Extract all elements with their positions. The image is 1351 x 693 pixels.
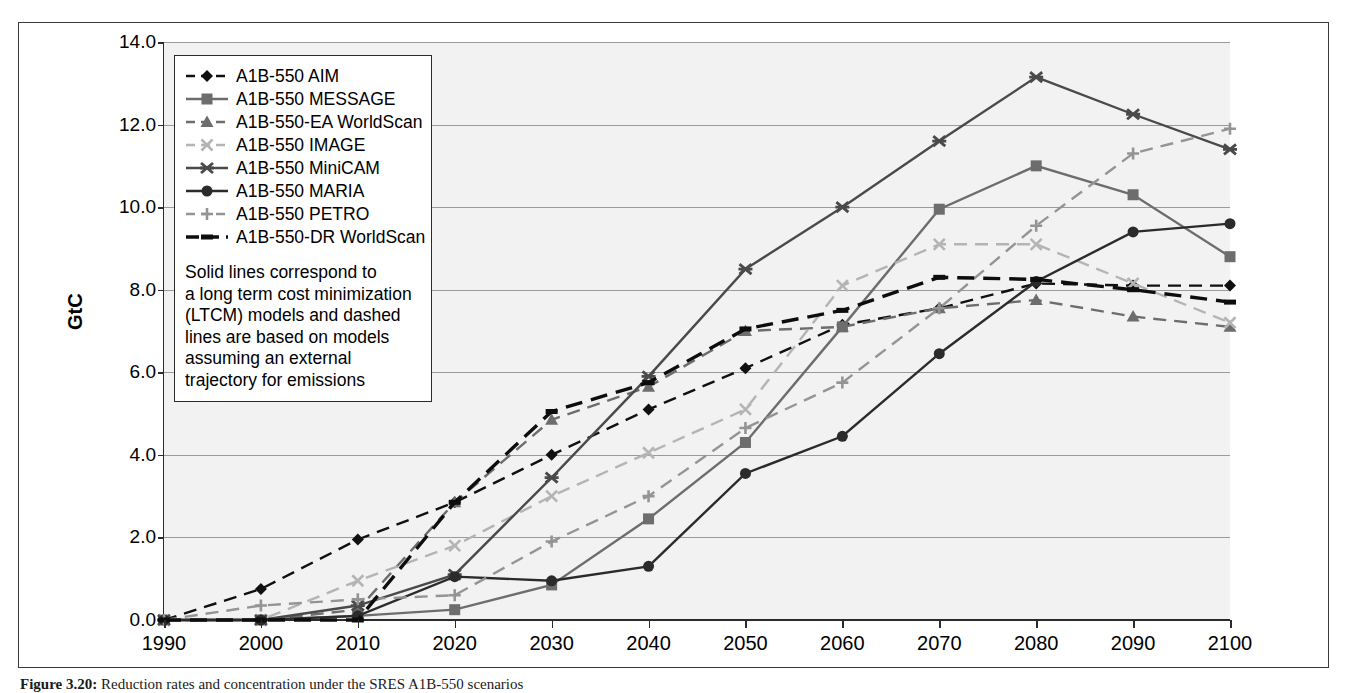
x-tick-label: 2090 <box>1111 632 1156 655</box>
data-point-diamond <box>643 403 655 415</box>
data-point-circle <box>1128 226 1139 237</box>
legend: A1B-550 AIMA1B-550 MESSAGEA1B-550-EA Wor… <box>174 55 432 402</box>
data-point-x <box>449 540 460 551</box>
x-tick-mark <box>939 620 941 628</box>
legend-label: A1B-550 MARIA <box>236 182 364 200</box>
legend-label: A1B-550 PETRO <box>236 205 369 223</box>
data-point-diamond <box>546 449 558 461</box>
x-axis-tick-labels: 1990200020102020203020402050206020702080… <box>164 628 1230 658</box>
x-tick-label: 2010 <box>336 632 381 655</box>
data-point-square <box>1128 189 1139 200</box>
legend-note-line-3: lines are based on models <box>185 327 423 349</box>
x-tick-label: 2040 <box>626 632 671 655</box>
data-point-star <box>545 473 559 483</box>
caption-text: Reduction rates and concentration under … <box>97 676 523 692</box>
data-point-plus <box>255 600 267 612</box>
data-point-circle <box>546 575 557 586</box>
y-tick-label: 6.0 <box>130 361 156 383</box>
x-tick-mark <box>261 620 263 628</box>
x-tick-label: 2030 <box>529 632 574 655</box>
legend-item-6[interactable]: A1B-550 PETRO <box>185 202 423 225</box>
data-point-circle <box>934 348 945 359</box>
data-point-plus <box>449 589 461 601</box>
legend-swatch-icon <box>185 136 229 154</box>
legend-swatch-icon <box>185 113 229 131</box>
legend-note-line-2: (LTCM) models and dashed <box>185 305 423 327</box>
x-tick-mark <box>358 620 360 628</box>
data-point-dash <box>1127 287 1139 292</box>
x-tick-label: 2020 <box>432 632 477 655</box>
data-point-dash <box>643 380 655 385</box>
legend-item-1[interactable]: A1B-550 MESSAGE <box>185 87 423 110</box>
legend-note-line-1: a long term cost minimization <box>185 284 423 306</box>
data-point-star <box>1029 72 1043 82</box>
data-point-diamond <box>201 70 213 82</box>
y-tick-label: 12.0 <box>119 114 156 136</box>
data-point-plus <box>739 422 751 434</box>
legend-swatch-icon <box>185 182 229 200</box>
x-tick-label: 2070 <box>917 632 962 655</box>
data-point-triangle <box>1127 310 1140 322</box>
legend-label: A1B-550-EA WorldScan <box>236 113 422 131</box>
data-point-x <box>837 280 848 291</box>
data-point-square <box>202 93 213 104</box>
legend-swatch-icon <box>185 90 229 108</box>
x-tick-mark <box>649 620 651 628</box>
x-tick-mark <box>1036 620 1038 628</box>
data-point-circle <box>1225 218 1236 229</box>
data-point-square <box>449 604 460 615</box>
legend-item-2[interactable]: A1B-550-EA WorldScan <box>185 110 423 133</box>
y-tick-label: 10.0 <box>119 196 156 218</box>
y-tick-label: 14.0 <box>119 31 156 53</box>
data-point-circle <box>449 571 460 582</box>
x-tick-mark <box>455 620 457 628</box>
x-tick-label: 2050 <box>723 632 768 655</box>
data-point-diamond <box>255 583 267 595</box>
legend-swatch-icon <box>185 67 229 85</box>
legend-label: A1B-550 MESSAGE <box>236 90 396 108</box>
legend-item-0[interactable]: A1B-550 AIM <box>185 64 423 87</box>
data-point-dash <box>1030 277 1042 282</box>
data-point-circle <box>740 468 751 479</box>
data-point-circle <box>837 431 848 442</box>
data-point-plus <box>546 536 558 548</box>
data-point-dash <box>546 409 558 414</box>
data-point-square <box>934 204 945 215</box>
y-axis-tick-labels: 0.02.04.06.08.010.012.014.0 <box>60 42 156 620</box>
legend-swatch-icon <box>185 159 229 177</box>
data-point-circle <box>643 561 654 572</box>
figure-root: GtC 0.02.04.06.08.010.012.014.0 19902000… <box>0 0 1351 693</box>
x-tick-mark <box>1230 620 1232 628</box>
legend-item-3[interactable]: A1B-550 IMAGE <box>185 133 423 156</box>
x-tick-mark <box>842 620 844 628</box>
legend-item-5[interactable]: A1B-550 MARIA <box>185 179 423 202</box>
data-point-x <box>740 404 751 415</box>
data-point-x <box>1031 239 1042 250</box>
x-tick-mark <box>552 620 554 628</box>
data-point-star <box>200 163 214 173</box>
data-point-dash <box>1224 300 1236 305</box>
legend-item-7[interactable]: A1B-550-DR WorldScan <box>185 225 423 248</box>
y-tick-label: 8.0 <box>130 279 156 301</box>
legend-item-4[interactable]: A1B-550 MiniCAM <box>185 156 423 179</box>
x-tick-label: 1990 <box>142 632 187 655</box>
legend-swatch-icon <box>185 205 229 223</box>
data-point-x <box>352 575 363 586</box>
legend-label: A1B-550-DR WorldScan <box>236 228 425 246</box>
legend-swatch-icon <box>185 228 229 246</box>
data-point-square <box>1225 251 1236 262</box>
y-tick-label: 0.0 <box>130 609 156 631</box>
x-tick-mark <box>1133 620 1135 628</box>
data-point-star <box>738 264 752 274</box>
x-tick-label: 2000 <box>239 632 284 655</box>
legend-note: Solid lines correspond toa long term cos… <box>185 262 423 391</box>
data-point-dash <box>201 234 213 239</box>
legend-note-line-5: trajectory for emissions <box>185 370 423 392</box>
data-point-square <box>740 437 751 448</box>
y-tick-label: 2.0 <box>130 526 156 548</box>
data-point-diamond <box>739 362 751 374</box>
legend-items: A1B-550 AIMA1B-550 MESSAGEA1B-550-EA Wor… <box>185 64 423 248</box>
data-point-x <box>546 491 557 502</box>
legend-note-line-4: assuming an external <box>185 348 423 370</box>
data-point-plus <box>201 208 213 220</box>
